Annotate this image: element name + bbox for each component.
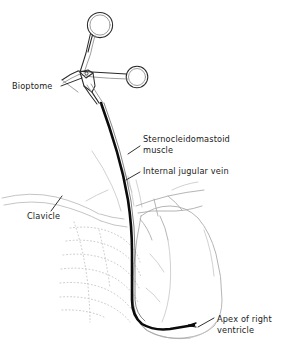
forceps-hinge [80, 70, 95, 92]
label-apex-line-1: ventricle [217, 325, 254, 335]
clavicle-bone [2, 194, 127, 227]
label-clavicle-line-0: Clavicle [27, 211, 60, 221]
label-scm-line-0: Sternocleidomastoid [143, 134, 230, 144]
finger-ring-upper [87, 12, 112, 52]
ribcage-dotted [60, 222, 141, 322]
label-internal-jugular-vein: Internal jugular vein [143, 166, 229, 176]
leader-apex [198, 318, 214, 327]
medical-illustration-figure: Bioptome Sternocleidomastoid muscle Inte… [0, 0, 294, 348]
finger-ring-lower [126, 66, 148, 88]
label-apex-right-ventricle: Apex of right ventricle [217, 314, 275, 335]
label-apex-line-0: Apex of right [217, 314, 272, 324]
forceps-arm-upper [80, 34, 95, 74]
illustration-canvas: Bioptome Sternocleidomastoid muscle Inte… [0, 0, 294, 348]
great-vessels [136, 182, 204, 240]
internal-jugular-vein-outline [128, 176, 142, 207]
label-ijv-line-0: Internal jugular vein [143, 166, 229, 176]
label-bioptome: Bioptome [12, 81, 53, 91]
heart-outline [133, 206, 222, 339]
label-clavicle: Clavicle [27, 211, 60, 221]
bioptome-forceps [62, 12, 148, 104]
label-scm-line-1: muscle [143, 145, 173, 155]
leader-scm [128, 146, 140, 154]
label-bioptome-line-0: Bioptome [12, 81, 53, 91]
label-sternocleidomastoid: Sternocleidomastoid muscle [143, 134, 233, 155]
